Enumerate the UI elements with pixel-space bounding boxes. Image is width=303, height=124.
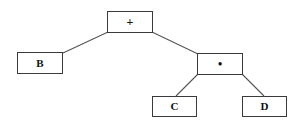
node-plus-operator: +: [107, 11, 153, 33]
node-c: C: [152, 96, 197, 117]
edge-plus-to-b: [63, 32, 108, 53]
node-label: •: [218, 58, 222, 70]
node-label: B: [36, 58, 43, 69]
node-label: C: [171, 101, 179, 112]
node-b: B: [17, 52, 63, 74]
node-label: D: [261, 101, 269, 112]
node-d: D: [242, 96, 287, 117]
edge-times-to-c: [176, 74, 198, 96]
expression-tree-diagram: + B • C D: [0, 0, 303, 124]
edge-times-to-d: [242, 74, 264, 96]
edge-plus-to-times: [152, 32, 198, 54]
node-multiply-operator: •: [197, 53, 243, 75]
node-label: +: [127, 16, 134, 28]
